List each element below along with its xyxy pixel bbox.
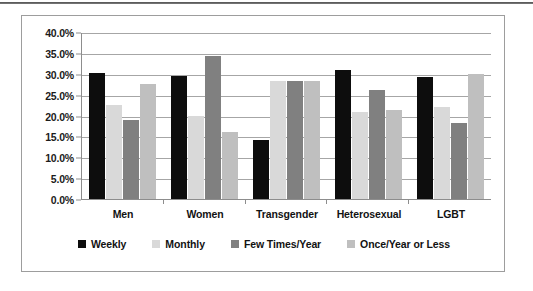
x-axis-baseline xyxy=(81,199,491,200)
x-axis-category-label: Men xyxy=(82,208,164,220)
y-axis-tick-label: 5.0% xyxy=(51,173,74,185)
bar-groups xyxy=(82,33,491,199)
y-axis-tick-label: 25.0% xyxy=(45,90,74,102)
bar xyxy=(222,132,238,199)
legend-label: Monthly xyxy=(165,238,205,250)
y-axis-tick-label: 40.0% xyxy=(45,27,74,39)
category-divider-tick xyxy=(163,199,164,204)
y-axis-tick-label: 35.0% xyxy=(45,48,74,60)
x-axis-category-label: Transgender xyxy=(246,208,328,220)
legend-item: Weekly xyxy=(78,238,126,250)
bar xyxy=(89,73,105,199)
y-axis-tick-label: 0.0% xyxy=(51,194,74,206)
legend-item: Few Times/Year xyxy=(231,238,321,250)
bar xyxy=(140,84,156,199)
legend-swatch-icon xyxy=(231,240,239,248)
y-axis-tick-label: 20.0% xyxy=(45,111,74,123)
legend-swatch-icon xyxy=(78,240,86,248)
legend-swatch-icon xyxy=(347,240,355,248)
bar xyxy=(106,105,122,199)
legend-label: Few Times/Year xyxy=(244,238,321,250)
bar xyxy=(468,74,484,199)
bar xyxy=(369,90,385,199)
legend-label: Weekly xyxy=(91,238,126,250)
category-divider-tick xyxy=(408,199,409,204)
y-axis-tick-label: 30.0% xyxy=(45,69,74,81)
bar xyxy=(188,116,204,199)
legend-label: Once/Year or Less xyxy=(360,238,450,250)
bar-group xyxy=(164,33,246,199)
bar xyxy=(451,123,467,199)
x-axis-category-label: LGBT xyxy=(410,208,492,220)
bar xyxy=(253,140,269,199)
bar-group xyxy=(409,33,491,199)
bar-group xyxy=(82,33,164,199)
chart-legend: WeeklyMonthlyFew Times/YearOnce/Year or … xyxy=(22,238,506,250)
x-axis-labels: MenWomenTransgenderHeterosexualLGBT xyxy=(82,208,492,220)
x-axis-category-label: Women xyxy=(164,208,246,220)
bar xyxy=(123,120,139,199)
chart-frame: 0.0%5.0%10.0%15.0%20.0%25.0%30.0%35.0%40… xyxy=(21,15,505,272)
legend-swatch-icon xyxy=(152,240,160,248)
bar xyxy=(335,70,351,199)
bar xyxy=(205,56,221,199)
page-top-rule xyxy=(0,2,533,4)
bar xyxy=(434,107,450,199)
legend-item: Monthly xyxy=(152,238,205,250)
category-divider-tick xyxy=(245,199,246,204)
y-axis-tick-label: 10.0% xyxy=(45,152,74,164)
plot-area: 0.0%5.0%10.0%15.0%20.0%25.0%30.0%35.0%40… xyxy=(81,33,491,200)
y-axis-tick-label: 15.0% xyxy=(45,131,74,143)
legend-item: Once/Year or Less xyxy=(347,238,450,250)
bar xyxy=(417,77,433,199)
bar xyxy=(352,112,368,199)
bar xyxy=(171,76,187,199)
bar-group xyxy=(246,33,328,199)
plot-wrapper: 0.0%5.0%10.0%15.0%20.0%25.0%30.0%35.0%40… xyxy=(81,33,491,200)
bar xyxy=(386,110,402,199)
bar xyxy=(304,81,320,199)
chart-screenshot: 0.0%5.0%10.0%15.0%20.0%25.0%30.0%35.0%40… xyxy=(0,0,533,291)
bar xyxy=(270,81,286,199)
category-divider-tick xyxy=(326,199,327,204)
x-axis-category-label: Heterosexual xyxy=(328,208,410,220)
bar xyxy=(287,81,303,199)
bar-group xyxy=(327,33,409,199)
